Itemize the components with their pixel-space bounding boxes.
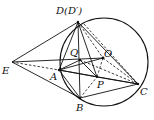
segment-OC-dashed [103,58,138,84]
label-O: O [104,48,112,59]
solid-segments [12,22,138,98]
segment-DO-dashed [78,22,103,58]
label-E: E [1,65,10,76]
segment-AB [59,70,80,98]
point-P [96,76,98,78]
point-D [77,21,79,23]
point-A [58,69,60,71]
label-C: C [140,86,148,97]
segment-DP [78,22,97,77]
label-Q: Q [70,47,78,58]
dashed-segments [12,22,138,98]
segment-BC [80,84,138,98]
point-C [137,83,139,85]
segment-ED [12,22,78,62]
point-Q [79,59,81,61]
label-D: D(D′) [55,5,82,16]
label-B: B [75,102,83,113]
circle-O [60,18,148,106]
segment-QC-dashed [80,60,138,84]
geometry-diagram: D(D′) Q O E A P B C [0,0,154,120]
point-B [79,97,81,99]
label-A: A [49,71,57,82]
label-P: P [96,79,104,90]
